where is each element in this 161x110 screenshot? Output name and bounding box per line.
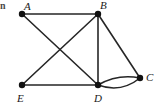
graph-figure: n ABCDE (0, 0, 161, 110)
vertex-d (95, 82, 101, 88)
graph-canvas (0, 0, 161, 110)
vertex-label-e: E (17, 93, 24, 104)
vertex-label-c: C (146, 72, 153, 83)
vertex-c (137, 75, 143, 81)
edge-d-c (98, 78, 140, 88)
edge-b-c (98, 14, 140, 78)
vertex-label-a: A (24, 1, 31, 12)
edge-layer (22, 14, 140, 88)
vertex-e (19, 82, 25, 88)
vertex-b (95, 11, 101, 17)
vertex-label-b: B (100, 0, 107, 11)
edge-d-c (98, 77, 140, 85)
vertex-label-d: D (94, 93, 102, 104)
